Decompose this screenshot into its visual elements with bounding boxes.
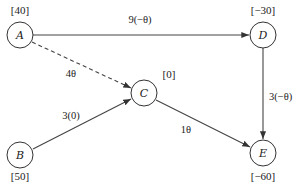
edge-label-c-e: 1θ <box>181 124 191 135</box>
node-b-label: B <box>15 149 24 162</box>
network-diagram: 9(−θ) 4θ 3(0) 3(−θ) 1θ A [40] B [50] C [… <box>0 0 304 184</box>
node-e-label: E <box>258 147 267 160</box>
node-c-value: [0] <box>163 68 176 80</box>
node-b-value: [50] <box>11 170 29 182</box>
node-d: D [−30] <box>250 4 276 48</box>
node-a-label: A <box>15 29 24 42</box>
node-a: A [40] <box>7 4 33 48</box>
edge-a-to-c <box>32 42 131 88</box>
node-a-value: [40] <box>11 4 29 16</box>
edge-b-to-c <box>33 99 131 149</box>
edge-label-a-d: 9(−θ) <box>128 14 152 26</box>
node-c-label: C <box>140 87 149 100</box>
node-c: C [0] <box>131 68 175 106</box>
edge-label-d-e: 3(−θ) <box>269 91 293 103</box>
edge-label-a-c: 4θ <box>66 68 76 79</box>
diagram-svg: 9(−θ) 4θ 3(0) 3(−θ) 1θ A [40] B [50] C [… <box>0 0 304 184</box>
node-e: E [−60] <box>250 140 276 182</box>
edge-c-to-e <box>156 100 250 147</box>
node-e-value: [−60] <box>251 170 276 182</box>
node-d-value: [−30] <box>251 4 276 16</box>
node-b: B [50] <box>7 142 33 182</box>
edge-label-b-c: 3(0) <box>62 110 80 122</box>
node-d-label: D <box>258 29 268 42</box>
